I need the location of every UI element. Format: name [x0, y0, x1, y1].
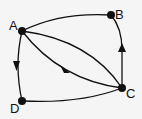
node-label-d: D — [10, 101, 19, 116]
node-label-a: A — [9, 18, 18, 33]
arrowhead-a-d-icon — [13, 61, 20, 71]
edge-a-b — [22, 15, 111, 31]
edge-a-d — [18, 31, 22, 101]
graph-diagram: A B C D — [0, 0, 142, 119]
node-label-b: B — [115, 7, 124, 22]
node-c — [118, 84, 126, 92]
edge-a-c-upper — [22, 31, 122, 88]
edge-a-c-lower — [22, 31, 122, 88]
node-b — [107, 11, 115, 19]
node-label-c: C — [126, 86, 135, 101]
arrowhead-a-c-icon — [60, 65, 70, 73]
arrowhead-c-b-icon — [118, 43, 126, 52]
edge-d-c — [22, 88, 122, 101]
node-a — [18, 27, 26, 35]
